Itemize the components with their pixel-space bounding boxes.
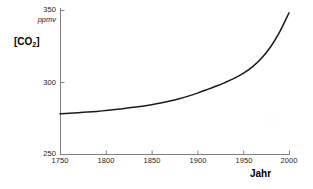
y-axis-unit-label: ppmv xyxy=(26,15,56,24)
co2-concentration-chart: 350 ppmv 300 250 [CO2] 1750 1800 1850 19… xyxy=(0,0,313,189)
x-axis-ticks xyxy=(61,151,290,155)
x-axis-title: Jahr xyxy=(250,168,271,179)
y-axis-title-tail: ] xyxy=(36,36,39,47)
y-tick-label-300: 300 xyxy=(30,78,56,87)
x-tick-label-1750: 1750 xyxy=(43,156,77,165)
x-tick-label-1950: 1950 xyxy=(227,156,261,165)
stray-dot xyxy=(271,119,272,120)
co2-curve xyxy=(60,13,289,114)
x-tick-label-1850: 1850 xyxy=(135,156,169,165)
x-tick-label-2000: 2000 xyxy=(272,156,306,165)
y-tick-label-350: 350 xyxy=(30,5,56,14)
stray-speck xyxy=(271,119,272,120)
x-tick-label-1800: 1800 xyxy=(89,156,123,165)
y-axis-title-subscript: 2 xyxy=(32,41,36,48)
y-axis-title-main: [CO xyxy=(14,36,32,47)
y-axis-title: [CO2] xyxy=(14,36,40,47)
x-tick-label-1900: 1900 xyxy=(181,156,215,165)
y-axis-ticks xyxy=(61,11,65,155)
